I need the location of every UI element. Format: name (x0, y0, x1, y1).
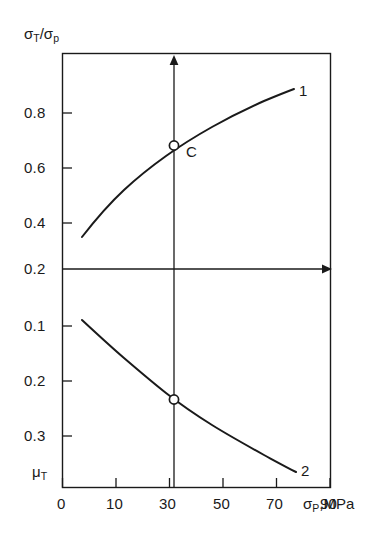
y-axis-title-top-sigma: σ (24, 25, 33, 42)
x-tick-label-0: 0 (57, 496, 66, 511)
y-axis-title-top-slash: /σ (40, 25, 53, 42)
y-axis-title-bottom-mu: μ (32, 463, 41, 480)
y-tick-label-0-4: 0.4 (24, 215, 45, 230)
x-tick-label-30: 30 (159, 496, 176, 511)
x-axis-title-sigma: σ (303, 495, 312, 512)
curve-series-1 (82, 89, 294, 237)
y-axis-title-top: σT/σp (24, 26, 59, 43)
point-c-top-marker (169, 141, 178, 150)
chart-figure: σT/σp 0.8 0.6 0.4 0.2 0.1 0.2 0.3 μT 0 1… (0, 0, 389, 539)
x-axis-ticks (63, 478, 331, 488)
chart-canvas (0, 0, 389, 539)
y-tick-label-0-3-bottom: 0.3 (24, 428, 45, 443)
point-c-label: C (186, 144, 197, 159)
y-axis-title-bottom: μT (32, 464, 47, 481)
curve-label-1: 1 (299, 83, 307, 98)
y-axis-title-top-sub-p: p (53, 32, 59, 44)
y-axis-title-bottom-sub-t: T (41, 470, 47, 482)
vertical-axis-arrow (170, 55, 179, 487)
x-axis-title: σP,MPa (303, 496, 354, 513)
y-tick-label-0-2-top: 0.2 (24, 261, 45, 276)
y-tick-label-0-8: 0.8 (24, 105, 45, 120)
curve-label-2: 2 (301, 463, 309, 478)
y-tick-label-0-1-bottom: 0.1 (24, 318, 45, 333)
x-tick-label-10: 10 (106, 496, 123, 511)
x-tick-label-70: 70 (266, 496, 283, 511)
y-tick-label-0-2-bottom: 0.2 (24, 373, 45, 388)
plot-frame (63, 54, 331, 488)
horizontal-axis-arrow (63, 265, 333, 274)
y-axis-ticks-top (63, 113, 73, 223)
x-tick-label-50: 50 (213, 496, 230, 511)
y-tick-label-0-6: 0.6 (24, 160, 45, 175)
curve-series-2 (82, 320, 296, 472)
y-axis-ticks-bottom (63, 326, 73, 436)
x-axis-title-unit: ,MPa (319, 495, 354, 512)
point-c-bottom-marker (169, 395, 178, 404)
